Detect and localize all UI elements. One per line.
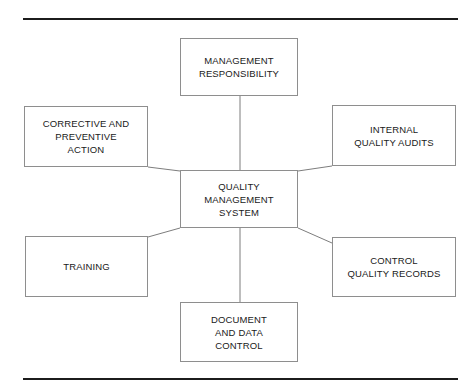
node-training-label: TRAINING: [63, 260, 110, 273]
connector-center-to-corrective-preventive-action: [148, 167, 180, 171]
connector-center-to-control-quality-records: [298, 228, 332, 243]
node-internal-quality-audits-label: INTERNAL QUALITY AUDITS: [354, 123, 434, 149]
node-quality-management-system[interactable]: QUALITY MANAGEMENT SYSTEM: [180, 170, 298, 228]
connector-center-to-internal-quality-audits: [298, 166, 332, 171]
node-document-data-control[interactable]: DOCUMENT AND DATA CONTROL: [180, 302, 298, 362]
node-training[interactable]: TRAINING: [25, 236, 148, 297]
node-corrective-preventive-action[interactable]: CORRECTIVE AND PREVENTIVE ACTION: [24, 106, 148, 167]
node-control-quality-records-label: CONTROL QUALITY RECORDS: [348, 254, 441, 280]
node-corrective-preventive-action-label: CORRECTIVE AND PREVENTIVE ACTION: [43, 117, 130, 156]
connector-center-to-training: [148, 228, 180, 237]
node-document-data-control-label: DOCUMENT AND DATA CONTROL: [211, 313, 267, 352]
diagram-canvas: MANAGEMENT RESPONSIBILITY CORRECTIVE AND…: [0, 0, 476, 390]
node-quality-management-system-label: QUALITY MANAGEMENT SYSTEM: [204, 180, 274, 219]
node-management-responsibility[interactable]: MANAGEMENT RESPONSIBILITY: [180, 38, 298, 96]
node-internal-quality-audits[interactable]: INTERNAL QUALITY AUDITS: [332, 105, 456, 166]
node-management-responsibility-label: MANAGEMENT RESPONSIBILITY: [199, 54, 279, 80]
node-control-quality-records[interactable]: CONTROL QUALITY RECORDS: [332, 237, 456, 297]
